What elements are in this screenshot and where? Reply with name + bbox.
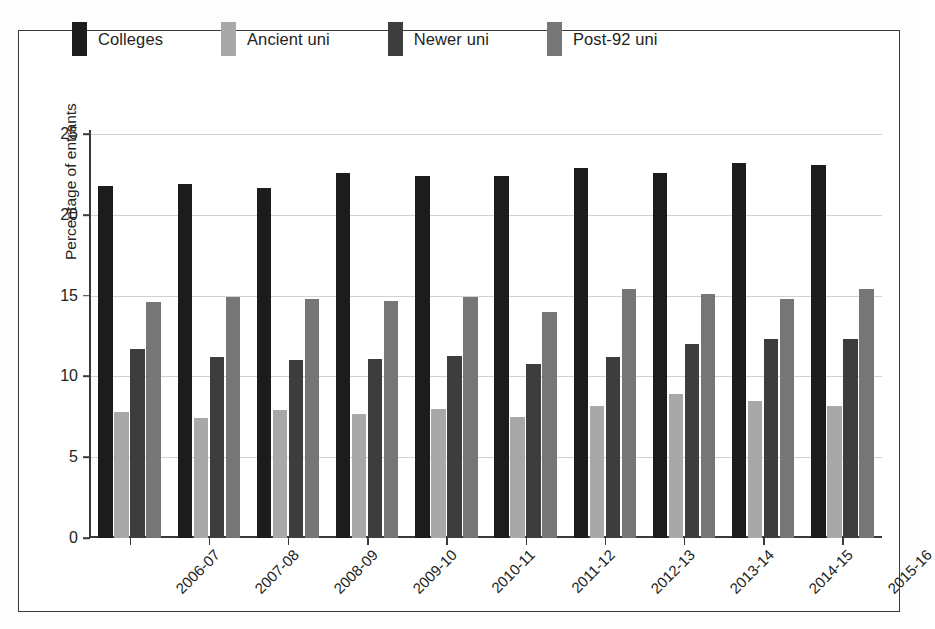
bar bbox=[669, 394, 684, 538]
bar-group bbox=[653, 110, 716, 538]
bar-group bbox=[494, 110, 557, 538]
y-tick-label: 5 bbox=[69, 448, 78, 466]
bar-group bbox=[336, 110, 399, 538]
bar-group bbox=[574, 110, 637, 538]
bar bbox=[431, 409, 446, 538]
bar bbox=[653, 173, 668, 538]
legend-swatch-icon bbox=[72, 22, 87, 56]
bar bbox=[827, 406, 842, 538]
bar bbox=[494, 176, 509, 538]
bar bbox=[748, 401, 763, 538]
legend-label: Post-92 uni bbox=[573, 30, 658, 49]
plot-area: Percentage of entrants 0510152025 2006-0… bbox=[90, 110, 882, 538]
bar-group bbox=[98, 110, 161, 538]
bar bbox=[606, 357, 621, 538]
legend-swatch-icon bbox=[388, 22, 403, 56]
y-tick-label: 15 bbox=[60, 287, 78, 305]
bar bbox=[859, 289, 874, 538]
chart-legend: CollegesAncient uniNewer uniPost-92 uni bbox=[72, 22, 716, 56]
bar bbox=[590, 406, 605, 538]
legend-item-post-92-uni: Post-92 uni bbox=[547, 22, 658, 56]
bar-group bbox=[732, 110, 795, 538]
x-tick-mark bbox=[526, 538, 527, 545]
bar bbox=[447, 356, 462, 539]
bar bbox=[701, 294, 716, 538]
x-tick-mark bbox=[605, 538, 606, 545]
legend-label: Colleges bbox=[98, 30, 163, 49]
bar bbox=[98, 186, 113, 538]
bar bbox=[289, 360, 304, 538]
x-tick-mark bbox=[684, 538, 685, 545]
bar bbox=[732, 163, 747, 538]
bar bbox=[130, 349, 145, 538]
bar bbox=[463, 297, 478, 538]
bar bbox=[368, 359, 383, 538]
x-tick-mark bbox=[763, 538, 764, 545]
legend-item-ancient-uni: Ancient uni bbox=[221, 22, 330, 56]
bar bbox=[415, 176, 430, 538]
bar bbox=[146, 302, 161, 538]
bar bbox=[257, 188, 272, 538]
bar bbox=[843, 339, 858, 538]
x-tick-mark bbox=[288, 538, 289, 545]
x-tick-mark bbox=[446, 538, 447, 545]
bar bbox=[780, 299, 795, 538]
x-tick-mark bbox=[130, 538, 131, 545]
bar bbox=[178, 184, 193, 538]
bar bbox=[305, 299, 320, 538]
bar bbox=[811, 165, 826, 538]
bar bbox=[210, 357, 225, 538]
y-tick-label: 20 bbox=[60, 206, 78, 224]
bar bbox=[574, 168, 589, 538]
bar bbox=[622, 289, 637, 538]
bar bbox=[226, 297, 241, 538]
bar bbox=[510, 417, 525, 538]
x-tick-mark bbox=[367, 538, 368, 545]
legend-label: Ancient uni bbox=[247, 30, 330, 49]
legend-item-newer-uni: Newer uni bbox=[388, 22, 489, 56]
bar bbox=[685, 344, 700, 538]
bar bbox=[352, 414, 367, 538]
y-tick-label: 10 bbox=[60, 367, 78, 385]
y-tick-label: 25 bbox=[60, 125, 78, 143]
bar-group bbox=[415, 110, 478, 538]
bar-group bbox=[178, 110, 241, 538]
bar bbox=[384, 301, 399, 538]
legend-swatch-icon bbox=[547, 22, 562, 56]
bar-group bbox=[811, 110, 874, 538]
legend-item-colleges: Colleges bbox=[72, 22, 163, 56]
bar-series-container bbox=[90, 110, 882, 538]
bar bbox=[194, 418, 209, 538]
bar bbox=[764, 339, 779, 538]
legend-swatch-icon bbox=[221, 22, 236, 56]
bar bbox=[526, 364, 541, 538]
bar bbox=[336, 173, 351, 538]
bar bbox=[114, 412, 129, 538]
y-tick-label: 0 bbox=[69, 529, 78, 547]
bar bbox=[273, 410, 288, 538]
bar-group bbox=[257, 110, 320, 538]
legend-label: Newer uni bbox=[414, 30, 489, 49]
x-tick-mark bbox=[209, 538, 210, 545]
x-tick-mark bbox=[842, 538, 843, 545]
bar bbox=[542, 312, 557, 538]
